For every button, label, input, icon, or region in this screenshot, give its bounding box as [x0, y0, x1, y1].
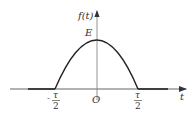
- y-axis-label: f(t): [77, 10, 94, 21]
- x-axis-label: t: [180, 91, 185, 102]
- origin-label: O: [92, 94, 100, 105]
- svg-text:2: 2: [53, 101, 59, 111]
- svg-text:-: -: [47, 93, 50, 103]
- peak-label: E: [84, 27, 93, 38]
- svg-text:τ: τ: [53, 90, 59, 100]
- pulse-diagram: f(t) E O t - τ 2 τ 2: [0, 0, 196, 115]
- svg-text:τ: τ: [135, 90, 141, 100]
- svg-text:2: 2: [135, 101, 141, 111]
- right-tick-label: τ 2: [134, 90, 142, 111]
- pulse-curve: [55, 40, 138, 89]
- left-tick-label: - τ 2: [47, 90, 60, 111]
